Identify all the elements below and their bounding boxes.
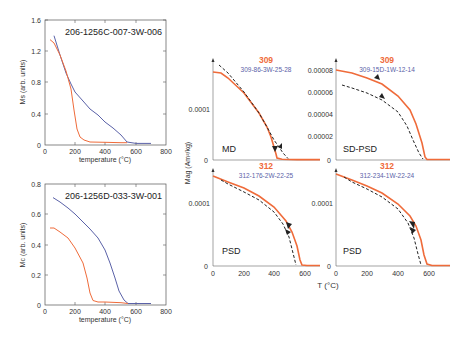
x-tick: 200 <box>361 270 373 277</box>
x-tick: 800 <box>160 308 172 315</box>
y-tick: 0 <box>204 263 208 270</box>
y-tick: 0.4 <box>31 111 41 118</box>
y-tick: 0 <box>327 263 331 270</box>
x-tick: 0 <box>43 148 47 155</box>
x-tick: 600 <box>299 270 311 277</box>
y-tick: 0.6 <box>31 211 41 218</box>
y-tick: 0.0001 <box>189 106 211 113</box>
y-tick: 0.00006 <box>308 89 333 96</box>
site-label: 312 <box>380 161 394 171</box>
y-axis-label: Ms (arb. units) <box>19 60 27 105</box>
orange-curve <box>50 40 127 143</box>
x-tick: 0 <box>334 270 338 277</box>
y-tick: 0 <box>37 302 41 309</box>
y-tick: 0.8 <box>31 79 41 86</box>
x-tick: 0 <box>43 308 47 315</box>
x-axis-label: temperature (°C) <box>79 156 131 164</box>
y-tick: 0 <box>204 157 208 164</box>
x-tick: 600 <box>130 308 142 315</box>
panel-md: 0.0001 0 309 309-86-3W-25-28 MD <box>189 55 320 164</box>
plot-frame <box>45 20 166 145</box>
x-tick: 600 <box>130 148 142 155</box>
x-axis-label: temperature (°C) <box>79 316 131 324</box>
y-tick: 0 <box>327 157 331 164</box>
panel-sd-psd: 0.00008 0.00006 0.00004 0.00002 0 309 30… <box>308 55 450 164</box>
x-tick: 400 <box>99 308 111 315</box>
y-tick: 0.00002 <box>308 133 333 140</box>
y-tick: 0.8 <box>31 181 41 188</box>
y-tick: 0.0001 <box>189 200 211 207</box>
domain-state-label: SD-PSD <box>343 144 378 154</box>
blue-curve <box>53 198 151 304</box>
panel-psd-2: 0.0001 0 0 200 400 600 312 312-234-1W-22… <box>312 161 450 277</box>
panel-title: 206-1256C-007-3W-006 <box>65 27 162 37</box>
sample-label: 309-15D-1W-12-14 <box>359 66 415 73</box>
x-tick: 200 <box>69 308 81 315</box>
domain-state-label: PSD <box>222 246 241 256</box>
x-tick: 200 <box>238 270 250 277</box>
y-tick: 0.4 <box>31 242 41 249</box>
y-tick: 0 <box>37 142 41 149</box>
panel-title: 206-1256D-033-3W-001 <box>65 191 162 201</box>
y-tick: 0.00004 <box>308 111 333 118</box>
site-label: 309 <box>259 55 273 65</box>
x-tick: 600 <box>423 270 435 277</box>
blue-curve <box>54 36 151 144</box>
x-tick: 0 <box>211 270 215 277</box>
y-tick: 0.2 <box>31 272 41 279</box>
y-tick: 1.2 <box>31 48 41 55</box>
arrow-icon <box>374 74 380 80</box>
y-tick: 0.0001 <box>312 200 334 207</box>
site-label: 309 <box>380 55 394 65</box>
sample-label: 312-176-2W-22-25 <box>239 172 294 179</box>
panel-left-bottom: 0.8 0.6 0.4 0.2 0 0 200 400 600 800 temp… <box>19 181 172 324</box>
site-label: 312 <box>259 161 273 171</box>
domain-state-label: MD <box>222 144 236 154</box>
y-tick: 0.00008 <box>308 67 333 74</box>
arrow-icon <box>410 227 416 234</box>
x-tick: 400 <box>268 270 280 277</box>
panel-psd-1: 0.0001 0 0 200 400 600 312 312-176-2W-22… <box>189 161 320 277</box>
y-axis-label: Mc (arb. units) <box>19 223 27 268</box>
x-tick: 400 <box>99 148 111 155</box>
x-axis-label: T (°C) <box>317 281 339 290</box>
domain-state-label: PSD <box>343 246 362 256</box>
x-tick: 800 <box>160 148 172 155</box>
plot-frame <box>45 184 166 305</box>
x-tick: 400 <box>392 270 404 277</box>
x-tick: 200 <box>69 148 81 155</box>
sample-label: 312-234-1W-22-24 <box>360 172 415 179</box>
y-tick: 1.6 <box>31 17 41 24</box>
figure: 1.6 1.2 0.8 0.4 0 0 200 400 600 800 temp… <box>0 0 466 340</box>
orange-curve <box>50 228 128 304</box>
y-axis-label: Mag (Am²/kg) <box>184 142 192 184</box>
arrow-icon <box>379 93 385 99</box>
arrow-icon <box>272 146 278 152</box>
sample-label: 309-86-3W-25-28 <box>241 66 292 73</box>
panel-left-top: 1.6 1.2 0.8 0.4 0 0 200 400 600 800 temp… <box>19 17 172 164</box>
